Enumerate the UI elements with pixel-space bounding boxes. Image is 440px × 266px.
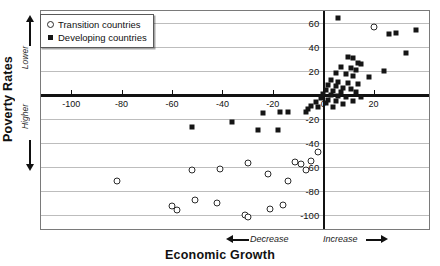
- x-axis-zero-line: [41, 94, 429, 97]
- y-axis-tick-label: 40: [297, 41, 319, 52]
- gridline-horizontal: [41, 143, 429, 144]
- data-point: [189, 167, 196, 174]
- data-point: [331, 104, 336, 109]
- x-axis-tick-label: -20: [266, 99, 279, 109]
- y-axis-tick-label: 20: [297, 65, 319, 76]
- data-point: [315, 149, 322, 156]
- y-down-line: [29, 140, 31, 164]
- data-point: [267, 205, 274, 212]
- legend-item-transition: Transition countries: [45, 18, 147, 31]
- data-point: [264, 170, 271, 177]
- data-point: [404, 50, 409, 55]
- data-point: [174, 206, 181, 213]
- data-point: [358, 61, 363, 66]
- data-point: [366, 74, 371, 79]
- data-point: [307, 157, 314, 164]
- data-point: [353, 67, 358, 72]
- x-right-direction-label: Increase: [323, 234, 358, 244]
- data-point: [323, 101, 328, 106]
- data-point: [302, 167, 309, 174]
- y-lower-direction-label: Higher: [20, 104, 30, 129]
- data-point: [351, 98, 356, 103]
- x-axis-tick: [172, 90, 173, 94]
- y-axis-tick-label: -40: [297, 137, 319, 148]
- gridline-horizontal: [41, 167, 429, 168]
- x-right-arrow-icon: [381, 235, 388, 243]
- x-axis-tick-label: -80: [115, 99, 128, 109]
- data-point: [303, 109, 308, 114]
- y-axis-zero-line: [323, 11, 325, 229]
- data-point: [244, 214, 251, 221]
- data-point: [279, 202, 286, 209]
- scatter-chart: Poverty Rates Lower Higher -100-80-60-40…: [0, 0, 440, 266]
- data-point: [244, 160, 251, 167]
- y-axis-tick-label: 60: [297, 17, 319, 28]
- x-axis-tick: [222, 90, 223, 94]
- legend-item-developing: Developing countries: [45, 31, 147, 44]
- data-point: [370, 23, 377, 30]
- gridline-horizontal: [41, 215, 429, 216]
- data-point: [260, 110, 265, 115]
- x-axis-tick-label: -60: [165, 99, 178, 109]
- data-point: [316, 104, 321, 109]
- x-left-arrow-icon: [226, 235, 233, 243]
- x-left-line: [233, 239, 249, 241]
- data-point: [358, 95, 363, 100]
- data-point: [356, 82, 361, 87]
- chart-legend: Transition countries Developing countrie…: [40, 14, 154, 48]
- data-point: [230, 120, 235, 125]
- x-left-direction-label: Decrease: [250, 234, 289, 244]
- y-down-arrow-icon: [26, 164, 34, 171]
- x-axis-tick: [273, 90, 274, 94]
- x-axis-tick-label: -100: [62, 99, 80, 109]
- data-point: [278, 109, 283, 114]
- gridline-horizontal: [41, 191, 429, 192]
- data-point: [284, 178, 291, 185]
- x-axis-tick-label: -40: [216, 99, 229, 109]
- y-axis-tick-label: -20: [297, 113, 319, 124]
- data-point: [351, 73, 356, 78]
- data-point: [343, 95, 348, 100]
- data-point: [338, 65, 343, 70]
- legend-label-transition: Transition countries: [58, 19, 141, 30]
- y-axis-tick-label: -80: [297, 185, 319, 196]
- y-up-line: [29, 22, 31, 46]
- data-point: [285, 109, 290, 114]
- gridline-horizontal: [41, 71, 429, 72]
- x-axis-tick: [122, 90, 123, 94]
- y-axis-title: Poverty Rates: [1, 56, 15, 142]
- data-point: [394, 30, 399, 35]
- data-point: [216, 166, 223, 173]
- data-point: [255, 127, 260, 132]
- data-point: [386, 31, 391, 36]
- data-point: [113, 178, 120, 185]
- y-axis-tick-label: -100: [297, 209, 319, 220]
- open-circle-marker-icon: [45, 21, 55, 28]
- x-axis-tick: [374, 90, 375, 94]
- x-axis-title: Economic Growth: [0, 248, 440, 262]
- data-point: [275, 127, 280, 132]
- data-point: [414, 28, 419, 33]
- legend-label-developing: Developing countries: [58, 32, 147, 43]
- x-right-line: [366, 239, 382, 241]
- x-axis-tick: [71, 90, 72, 94]
- filled-square-marker-icon: [45, 35, 55, 40]
- data-point: [333, 98, 338, 103]
- data-point: [336, 16, 341, 21]
- data-point: [343, 72, 348, 77]
- data-point: [191, 197, 198, 204]
- y-upper-direction-label: Lower: [20, 46, 30, 69]
- data-point: [381, 68, 386, 73]
- y-up-arrow-icon: [26, 15, 34, 22]
- data-point: [346, 80, 351, 85]
- data-point: [190, 125, 195, 130]
- data-point: [341, 102, 346, 107]
- gridline-horizontal: [41, 119, 429, 120]
- data-point: [333, 71, 338, 76]
- data-point: [214, 199, 221, 206]
- x-axis-tick-label: 20: [369, 99, 379, 109]
